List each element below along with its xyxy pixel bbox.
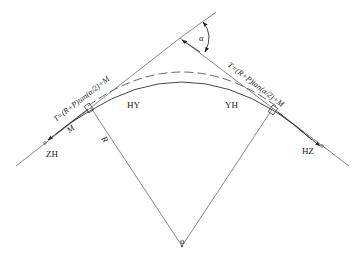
label-yh: YH bbox=[225, 100, 238, 110]
apex-arrow-icon bbox=[182, 40, 200, 52]
label-hz: HZ bbox=[302, 146, 314, 156]
label-zh: ZH bbox=[46, 149, 58, 159]
label-center: o bbox=[180, 236, 185, 246]
label-radius: R bbox=[99, 133, 111, 144]
right-radius-line bbox=[182, 108, 273, 246]
alpha-angle-arc bbox=[203, 22, 209, 52]
left-tangent-line bbox=[16, 38, 180, 166]
transition-curve-diagram: ZH HZ HY YH α R M o T=(R+P)tan(α/2)+M T=… bbox=[0, 0, 361, 273]
label-m: M bbox=[64, 122, 77, 135]
tangent-extension-line bbox=[180, 12, 216, 38]
figure-caption bbox=[60, 258, 310, 268]
label-hy: HY bbox=[127, 100, 140, 110]
left-radius-line bbox=[91, 108, 182, 246]
right-tangent-line bbox=[180, 38, 349, 166]
left-tangent-formula: T=(R+P)tan(α/2)+M bbox=[52, 74, 112, 124]
label-alpha: α bbox=[199, 33, 204, 43]
